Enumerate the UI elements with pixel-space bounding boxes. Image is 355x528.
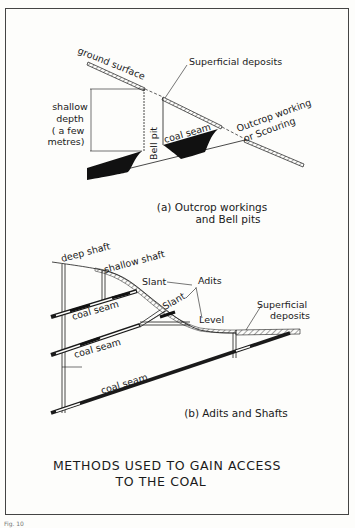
deep-shaft — [62, 264, 65, 413]
label-adits: Adits — [198, 275, 222, 286]
panel-b-subtitle: (b) Adits and Shafts — [184, 407, 288, 419]
diagram-canvas: ground surface Superficial deposits shal… — [0, 0, 355, 528]
panel-a-outcrop-bell-pits: ground surface Superficial deposits shal… — [47, 45, 312, 225]
label-bell-pit: Bell pit — [148, 127, 159, 160]
label-superficial-deposits: Superficial deposits — [189, 56, 282, 67]
label-superficial: Superficial — [257, 299, 307, 310]
figure-title-line2: TO THE COAL — [115, 474, 207, 489]
superficial-leader — [165, 65, 187, 98]
right-superficial-deposits — [236, 329, 300, 335]
depth-dimension — [90, 89, 144, 151]
label-shallow: shallow — [52, 101, 88, 112]
label-depth: depth — [56, 113, 84, 124]
panel-a-subtitle-line1: (a) Outcrop workings — [157, 201, 267, 213]
figure-title-line1: METHODS USED TO GAIN ACCESS — [53, 458, 281, 473]
label-deep-shaft: deep shaft — [60, 240, 112, 264]
right-shaft — [233, 333, 236, 358]
label-coal-seam-3: coal seam — [99, 371, 148, 396]
label-metres: metres) — [47, 136, 84, 147]
label-level: Level — [199, 314, 224, 325]
label-shallow-shaft: shallow shaft — [103, 248, 166, 275]
label-a-few: ( a few — [52, 125, 85, 136]
label-slant-2: Slant — [161, 290, 188, 312]
label-slant-1: Slant — [142, 276, 167, 287]
bell-pit-worked-coal — [87, 151, 142, 180]
label-deposits: deposits — [270, 310, 310, 321]
panel-b-adits-shafts: deep shaft shallow shaft Slant Slant Adi… — [51, 240, 310, 419]
panel-a-subtitle-line2: and Bell pits — [195, 213, 260, 225]
figure-caption: Fig. 10 — [4, 520, 24, 527]
